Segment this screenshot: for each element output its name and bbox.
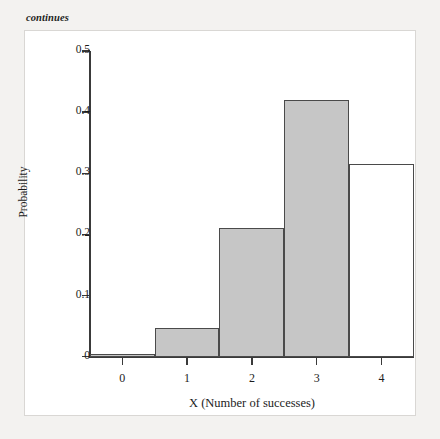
x-tick-mark — [381, 357, 382, 365]
x-tick-label: 4 — [362, 371, 402, 386]
x-tick-label: 3 — [297, 371, 337, 386]
x-tick-label: 0 — [102, 371, 142, 386]
y-axis-title: Probability — [17, 132, 29, 252]
figure-page: continues 00.10.20.30.40.5 01234 Probabi… — [0, 0, 440, 439]
y-tick-label: 0.4 — [50, 104, 90, 116]
x-axis-title: X (Number of successes) — [89, 396, 415, 411]
y-tick-label: 0.1 — [50, 288, 90, 300]
x-tick-mark — [316, 357, 317, 365]
x-tick-label: 2 — [232, 371, 272, 386]
x-tick-label: 1 — [167, 371, 207, 386]
y-axis-line — [89, 51, 91, 358]
x-tick-mark — [122, 357, 123, 365]
x-tick-mark — [251, 357, 252, 365]
y-tick-label: 0.3 — [50, 165, 90, 177]
y-tick-label: 0 — [50, 349, 90, 361]
bar-4 — [349, 164, 414, 357]
bar-1 — [155, 328, 220, 357]
probability-histogram: 00.10.20.30.40.5 01234 Probability X (Nu… — [0, 0, 440, 439]
bar-3 — [284, 100, 349, 357]
bar-0 — [90, 354, 155, 356]
y-tick-label: 0.2 — [50, 226, 90, 238]
x-tick-mark — [186, 357, 187, 365]
bar-2 — [219, 228, 284, 356]
y-tick-label: 0.5 — [50, 43, 90, 55]
